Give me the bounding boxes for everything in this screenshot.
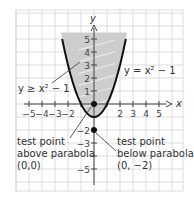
svg-text:(0,0): (0,0) bbox=[17, 160, 41, 171]
svg-text:−5: −5 bbox=[77, 165, 90, 175]
svg-text:above parabola: above parabola bbox=[17, 148, 95, 159]
svg-text:1: 1 bbox=[84, 87, 90, 97]
svg-text:−5: −5 bbox=[22, 109, 35, 119]
svg-text:3: 3 bbox=[84, 61, 90, 71]
svg-text:2: 2 bbox=[117, 109, 123, 119]
svg-text:y: y bbox=[89, 13, 97, 24]
svg-text:5: 5 bbox=[84, 35, 90, 45]
svg-text:4: 4 bbox=[84, 48, 90, 58]
svg-text:(0, −2): (0, −2) bbox=[117, 160, 152, 171]
svg-text:4: 4 bbox=[143, 109, 149, 119]
parabola-inequality-graph: xy −5−4−3−2234554321−2−3−5 y = x² − 1y ≥… bbox=[0, 0, 194, 197]
svg-text:−3: −3 bbox=[48, 109, 61, 119]
svg-text:3: 3 bbox=[130, 109, 136, 119]
svg-text:y = x² − 1: y = x² − 1 bbox=[124, 65, 176, 76]
svg-text:test point: test point bbox=[117, 136, 165, 147]
svg-text:x: x bbox=[175, 98, 182, 109]
svg-text:−3: −3 bbox=[77, 139, 90, 149]
svg-text:2: 2 bbox=[84, 74, 90, 84]
svg-text:−2: −2 bbox=[77, 126, 90, 136]
svg-text:5: 5 bbox=[156, 109, 162, 119]
svg-text:−2: −2 bbox=[61, 109, 74, 119]
svg-text:below parabola: below parabola bbox=[117, 148, 194, 159]
svg-text:y ≥ x² − 1: y ≥ x² − 1 bbox=[18, 83, 70, 94]
svg-text:test point: test point bbox=[17, 136, 65, 147]
svg-text:−4: −4 bbox=[35, 109, 49, 119]
